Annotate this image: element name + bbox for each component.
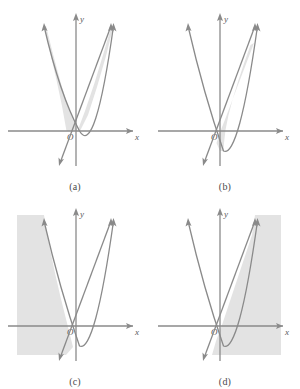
graph-a: x y O <box>0 0 150 175</box>
y-axis-label-a: y <box>79 14 84 24</box>
x-axis-label-a: x <box>134 132 139 142</box>
panel-b: x y O (b) <box>150 0 300 194</box>
figure-four-panel-graphs: x y O (a) <box>0 0 300 389</box>
y-axis-label-d: y <box>223 209 228 219</box>
x-axis-label-d: x <box>284 327 289 337</box>
graph-c: x y O <box>0 195 150 370</box>
y-axis-c <box>73 208 79 361</box>
y-axis-a <box>73 13 79 166</box>
graph-b: x y O <box>150 0 300 175</box>
line-curve-c <box>59 218 115 361</box>
shaded-region-b <box>217 43 255 151</box>
y-axis-label-c: y <box>79 209 84 219</box>
x-axis-label-b: x <box>284 132 289 142</box>
line-curve-a <box>59 23 115 166</box>
y-axis-label-b: y <box>223 14 228 24</box>
line-curve-b <box>203 23 259 166</box>
caption-d: (d) <box>150 376 300 387</box>
panel-d: x y O (d) <box>150 195 300 389</box>
caption-b: (b) <box>150 181 300 192</box>
shaded-region-d <box>212 215 281 355</box>
caption-a: (a) <box>0 181 150 192</box>
panel-c: x y O (c) <box>0 195 150 389</box>
shaded-region-c <box>17 215 73 355</box>
caption-c: (c) <box>0 376 150 387</box>
panel-a: x y O (a) <box>0 0 150 194</box>
graph-d: x y O <box>150 195 300 370</box>
shaded-region-a <box>44 26 114 131</box>
x-axis-label-c: x <box>134 327 139 337</box>
